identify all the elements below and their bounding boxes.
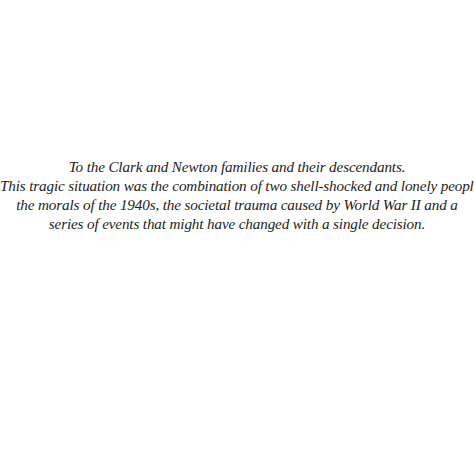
dedication-line-1: To the Clark and Newton families and the… [0, 157, 474, 176]
dedication-line-2: This tragic situation was the combinatio… [0, 176, 474, 195]
dedication-page: To the Clark and Newton families and the… [0, 0, 474, 458]
dedication-line-4: series of events that might have changed… [0, 214, 474, 233]
dedication-line-3: the morals of the 1940s, the societal tr… [0, 195, 474, 214]
dedication-text: To the Clark and Newton families and the… [0, 157, 474, 233]
